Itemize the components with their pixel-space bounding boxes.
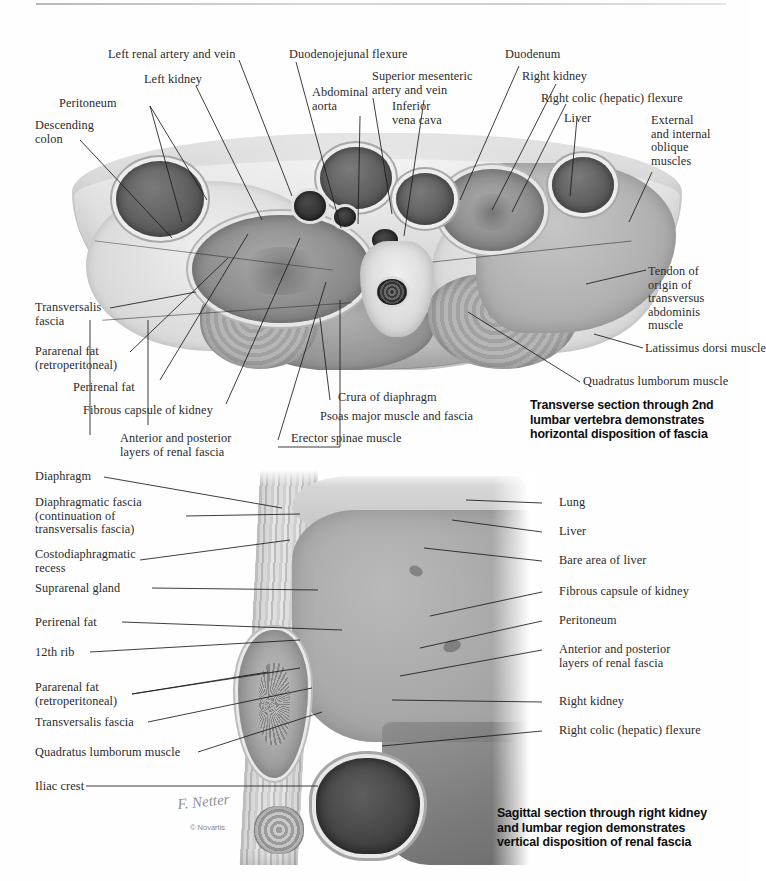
label-crura-of-diaphragm: Crura of diaphragm [338, 391, 437, 405]
label-peritoneum: Peritoneum [59, 97, 117, 111]
label-suprarenal-gland: Suprarenal gland [35, 582, 120, 596]
label-tendon-of-origin-of-transversus-abdominis-muscle: Tendon of origin of transversus abdomini… [648, 265, 704, 333]
label-right-kidney: Right kidney [522, 70, 587, 84]
label-right-colic-hepatic-flexure-sagittal: Right colic (hepatic) flexure [559, 724, 701, 738]
copyright-notice: © Novartis [190, 823, 225, 832]
caption-transverse-section: Transverse section through 2nd lumbar ve… [530, 398, 713, 442]
label-abdominal-aorta: Abdominal aorta [312, 86, 368, 113]
figure-transverse-section [72, 133, 682, 370]
label-costodiaphragmatic-recess: Costodiaphragmatic recess [35, 548, 136, 575]
label-quadratus-lumborum-muscle-sagittal: Quadratus lumborum muscle [35, 746, 180, 760]
descending-colon-organ [116, 161, 204, 237]
label-inferior-vena-cava: Inferior vena cava [392, 100, 442, 127]
label-peritoneum-sagittal: Peritoneum [559, 614, 617, 628]
right-kidney-organ [440, 169, 544, 251]
label-descending-colon: Descending colon [35, 119, 94, 146]
duodenum-organ [396, 173, 454, 225]
label-diaphragmatic-fascia: Diaphragmatic fascia (continuation of tr… [35, 496, 142, 537]
right-colic-flexure-organ [552, 157, 614, 213]
label-anterior-and-posterior-layers-of-renal-fascia: Anterior and posterior layers of renal f… [120, 432, 231, 459]
label-pararenal-fat-retroperitoneal-sagittal: Pararenal fat (retroperitoneal) [35, 681, 117, 708]
caption-sagittal-section: Sagittal section through right kidney an… [497, 806, 707, 850]
label-right-kidney-sagittal: Right kidney [559, 695, 624, 709]
label-fibrous-capsule-of-kidney-sagittal: Fibrous capsule of kidney [559, 585, 689, 599]
label-transversalis-fascia-sagittal: Transversalis fascia [35, 716, 134, 730]
label-right-colic-hepatic-flexure: Right colic (hepatic) flexure [541, 92, 683, 106]
label-diaphragm: Diaphragm [35, 470, 91, 484]
label-external-and-internal-oblique-muscles: External and internal oblique muscles [651, 114, 711, 168]
label-erector-spinae-muscle: Erector spinae muscle [291, 432, 402, 446]
label-duodenojejunal-flexure: Duodenojejunal flexure [289, 48, 408, 62]
label-latissimus-dorsi-muscle: Latissimus dorsi muscle [645, 342, 766, 356]
label-anterior-and-posterior-layers-of-renal-fascia-sagittal: Anterior and posterior layers of renal f… [559, 643, 670, 670]
label-lung: Lung [559, 496, 585, 510]
top-edge-fade [196, 470, 536, 486]
abdominal-aorta-vessel [294, 191, 326, 221]
label-duodenum: Duodenum [505, 48, 560, 62]
superior-mesenteric-vessels [334, 207, 356, 227]
right-colic-flexure-region [316, 758, 420, 854]
label-psoas-major-muscle-and-fascia: Psoas major muscle and fascia [320, 410, 473, 424]
label-perirenal-fat-sagittal: Perirenal fat [35, 616, 97, 630]
label-transversalis-fascia: Transversalis fascia [35, 301, 101, 328]
label-left-renal-artery-and-vein: Left renal artery and vein [108, 48, 236, 62]
label-iliac-crest: Iliac crest [35, 780, 84, 794]
label-quadratus-lumborum-muscle: Quadratus lumborum muscle [583, 375, 728, 389]
label-superior-mesenteric-artery-and-vein: Superior mesenteric artery and vein [372, 70, 473, 97]
label-liver-sagittal: Liver [559, 525, 586, 539]
label-left-kidney: Left kidney [144, 73, 202, 87]
page-top-rule [36, 3, 726, 5]
label-pararenal-fat-retroperitoneal: Pararenal fat (retroperitoneal) [35, 345, 117, 372]
label-fibrous-capsule-of-kidney: Fibrous capsule of kidney [83, 404, 213, 418]
label-liver: Liver [564, 112, 591, 126]
label-12th-rib: 12th rib [35, 646, 74, 660]
spinal-cord [377, 279, 407, 305]
label-perirenal-fat: Perirenal fat [73, 381, 135, 395]
duodenojejunal-flexure-organ [320, 147, 392, 209]
label-bare-area-of-liver: Bare area of liver [559, 554, 646, 568]
